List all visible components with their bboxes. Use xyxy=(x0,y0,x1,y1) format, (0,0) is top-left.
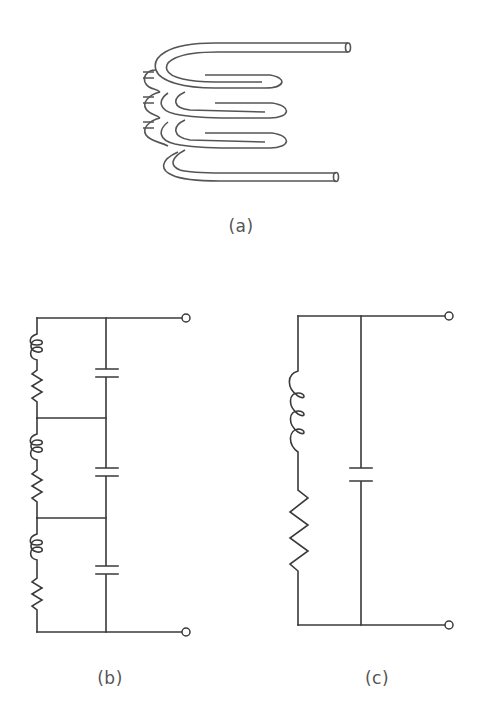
panel-label-b: (b) xyxy=(97,668,123,688)
inter-turn-capacitors xyxy=(143,70,168,146)
terminal-bottom xyxy=(182,628,190,636)
section-3-inductor-resistor xyxy=(30,518,42,632)
coil-drawing xyxy=(155,43,350,182)
inductor-resistor-branch xyxy=(289,316,308,625)
circuit-b xyxy=(30,314,190,636)
capacitor-branch xyxy=(350,316,372,625)
terminal-top xyxy=(445,312,453,320)
section-1-inductor-resistor xyxy=(30,318,42,418)
section-2-inductor-resistor xyxy=(30,418,42,518)
figure-canvas xyxy=(0,0,486,704)
circuit-c xyxy=(289,312,453,629)
panel-label-a: (a) xyxy=(228,216,253,236)
terminal-top xyxy=(182,314,190,322)
terminal-bottom xyxy=(445,621,453,629)
shunt-capacitors xyxy=(96,318,118,632)
panel-label-c: (c) xyxy=(365,668,389,688)
